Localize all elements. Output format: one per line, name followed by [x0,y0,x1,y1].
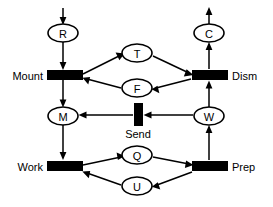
place-M[interactable]: M [48,107,78,125]
transition-prep[interactable]: Prep [192,161,255,173]
place-W[interactable]: W [194,107,224,125]
place-label-W: W [204,111,215,123]
arc-R-to-mount [60,42,67,70]
transition-work[interactable]: Work [18,161,83,173]
transition-dism[interactable]: Dism [192,70,257,82]
arc-send-to-M [79,112,134,119]
arc-mount-to-T [83,53,125,74]
petri-net-canvas: R C T F M W Q [0,0,273,207]
arc-in-to-R [60,8,67,25]
arc-W-to-send [144,112,194,119]
arc-dism-to-C [206,42,213,69]
place-Q[interactable]: Q [122,146,152,164]
petri-net-diagram: R C T F M W Q [0,0,273,207]
arc-mount-to-M [60,80,67,108]
arc-Q-to-prep [153,157,194,168]
place-F[interactable]: F [122,79,152,97]
transition-label-dism: Dism [232,70,257,82]
transition-send[interactable]: Send [125,103,151,140]
place-T[interactable]: T [122,44,152,62]
arc-work-to-Q [83,152,125,165]
place-label-T: T [134,48,141,60]
place-R[interactable]: R [48,24,78,42]
transition-label-send: Send [125,128,151,140]
arc-dism-to-F [152,79,192,93]
arc-T-to-dism [153,56,194,76]
arc-C-to-out [206,7,213,24]
arc-F-to-mount [83,77,122,88]
arc-M-to-work [60,125,67,160]
place-label-C: C [205,28,213,40]
place-C[interactable]: C [194,24,224,42]
transition-mount[interactable]: Mount [12,70,83,82]
arc-W-to-dism [206,81,213,108]
arc-prep-to-U [152,172,192,190]
place-label-F: F [134,83,141,95]
place-label-Q: Q [133,150,142,162]
place-label-M: M [58,111,67,123]
transition-label-prep: Prep [232,161,255,173]
place-label-U: U [133,181,141,193]
place-label-R: R [59,28,67,40]
transition-label-work: Work [18,161,44,173]
place-U[interactable]: U [122,177,152,195]
arc-U-to-work [82,171,121,185]
transition-label-mount: Mount [12,70,43,82]
arc-prep-to-W [206,125,213,160]
